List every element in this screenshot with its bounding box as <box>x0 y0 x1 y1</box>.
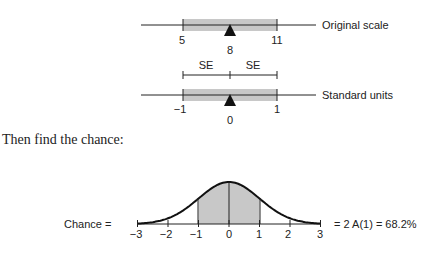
se-brackets: SE SE <box>183 59 277 79</box>
tick-5: 5 <box>179 34 185 46</box>
svg-text:−3: −3 <box>130 228 143 240</box>
original-scale-axis: 5 8 11 Original scale <box>141 19 389 56</box>
tick-0: 0 <box>227 114 233 126</box>
standard-units-axis: −1 0 1 Standard units <box>141 89 393 126</box>
svg-text:2: 2 <box>285 228 291 240</box>
svg-text:−1: −1 <box>190 228 203 240</box>
standard-units-label: Standard units <box>322 89 393 101</box>
chance-label: Chance = <box>64 218 111 230</box>
tick-1: 1 <box>274 103 280 115</box>
instruction-text: Then find the chance: <box>2 132 124 148</box>
svg-text:3: 3 <box>317 228 323 240</box>
se-label-right: SE <box>246 59 261 71</box>
normal-curve-diagram: −3 −2 −1 0 1 2 3 Chance = = 2 A(1) = 68.… <box>64 182 417 240</box>
svg-text:1: 1 <box>256 228 262 240</box>
original-scale-label: Original scale <box>322 19 389 31</box>
figure-canvas: 5 8 11 Original scale SE SE −1 0 1 Stand… <box>0 0 448 256</box>
svg-text:−2: −2 <box>160 228 173 240</box>
tick-8: 8 <box>227 44 233 56</box>
se-label-left: SE <box>199 59 214 71</box>
tick-neg1: −1 <box>174 103 187 115</box>
tick-11: 11 <box>271 34 282 46</box>
result-label: = 2 A(1) = 68.2% <box>334 218 417 230</box>
svg-text:0: 0 <box>226 228 232 240</box>
